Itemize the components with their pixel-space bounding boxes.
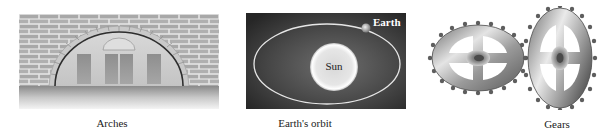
- arch-icon: [19, 14, 219, 109]
- arches-caption: Arches: [96, 117, 127, 129]
- arches-figure: [19, 14, 219, 109]
- earth-icon: [362, 24, 371, 33]
- gears-icon: [425, 6, 610, 110]
- earth-label: Earth: [373, 16, 401, 28]
- sun-label: Sun: [325, 60, 342, 72]
- gears-caption: Gears: [544, 118, 570, 130]
- left-gear: [428, 21, 528, 95]
- earth-orbit-caption: Earth's orbit: [278, 117, 332, 129]
- earth-orbit-figure: Sun Earth: [246, 13, 406, 109]
- right-gear: [523, 6, 597, 110]
- gears-figure: [425, 6, 610, 110]
